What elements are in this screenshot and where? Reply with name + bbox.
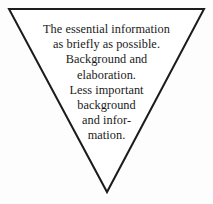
diagram-text-line-8: mation.: [0, 128, 213, 143]
diagram-text-line-7: and infor-: [0, 113, 213, 128]
diagram-text-line-5: Less important: [0, 83, 213, 98]
diagram-text-line-3: Background and: [0, 52, 213, 67]
diagram-text-line-4: elaboration.: [0, 68, 213, 83]
diagram-text-line-1: The essential information: [0, 22, 213, 37]
diagram-text-line-2: as briefly as possible.: [0, 37, 213, 52]
diagram-text-line-6: background: [0, 98, 213, 113]
inverted-pyramid-diagram: The essential information as briefly as …: [0, 0, 213, 204]
diagram-text-block: The essential information as briefly as …: [0, 22, 213, 144]
